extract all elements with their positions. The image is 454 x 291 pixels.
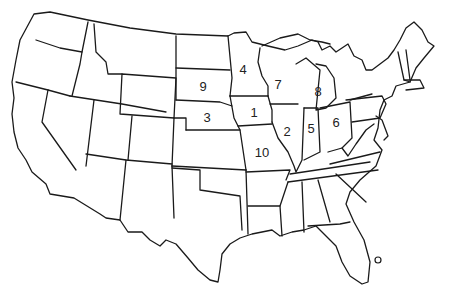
border-ok-ar [246,170,248,234]
border-ms [280,182,288,236]
border-nd-sd [176,68,230,70]
border-ms-al [302,182,304,232]
state-label-8: 8 [314,85,321,98]
border-wv-va [342,124,374,156]
border-az-nm [120,160,126,220]
border-id-mt [94,24,122,74]
state-label-10: 10 [255,146,269,159]
border-vt-nh [406,50,410,80]
border-co-east [172,118,174,166]
border-nv-ca [42,90,76,170]
border-tx-ok [172,168,242,230]
border-nm-east [172,166,174,218]
border-wy [120,74,176,118]
border-id-west [72,22,88,96]
border-ne-sw [174,118,186,130]
us-outline [12,12,434,284]
border-mn-west [228,36,232,96]
state-label-7: 7 [274,78,281,91]
state-label-4: 4 [239,63,246,76]
us-outline-map [0,0,454,291]
border-mn-wi [258,48,268,96]
lake-okeechobee [375,257,381,263]
border-nv-ut [86,100,94,166]
state-label-1: 1 [250,106,257,119]
border-wa-or [36,40,82,52]
border-va-nc [330,152,380,164]
border-or-ca-nv [16,82,70,96]
border-sd-ne [176,100,232,106]
state-label-5: 5 [307,122,314,135]
border-al-ga [318,180,330,222]
border-ne-ia-mo [230,96,246,170]
border-ia-east [268,96,272,122]
state-label-9: 9 [199,80,206,93]
border-id-ut-wy [70,96,166,112]
state-label-6: 6 [332,116,339,129]
border-ga-fl [308,222,350,226]
state-label-2: 2 [283,125,290,138]
border-il-shape [272,108,304,172]
border-ia-mo [238,124,272,126]
border-mo-ar [246,170,290,180]
border-co [128,116,132,160]
state-label-3: 3 [203,111,210,124]
